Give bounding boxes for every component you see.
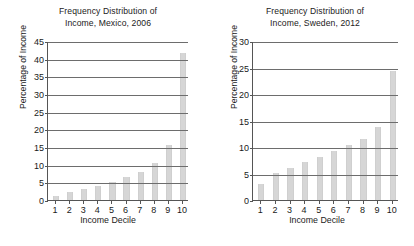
y-tick-label: 40 <box>34 55 44 65</box>
y-tick-mark <box>45 95 49 96</box>
bar <box>375 127 381 200</box>
x-tick-mark <box>140 200 141 204</box>
x-tick-label: 8 <box>151 205 156 215</box>
chart-title-line2: Income, Mexico, 2006 <box>18 18 198 30</box>
gridline <box>48 148 188 149</box>
bar <box>287 168 293 200</box>
x-tick-mark <box>83 200 84 204</box>
chart-title-line2: Income, Sweden, 2012 <box>225 18 405 30</box>
y-tick-label: 30 <box>34 90 44 100</box>
y-tick-mark <box>45 113 49 114</box>
x-tick-mark <box>260 200 261 204</box>
bar <box>317 157 323 200</box>
y-tick-label: 15 <box>239 117 249 127</box>
x-tick-label: 4 <box>302 205 307 215</box>
chart-title-line1: Frequency Distribution of <box>225 6 405 18</box>
gridline <box>48 113 188 114</box>
plot-area-sweden: 05101520253012345678910 <box>252 42 398 201</box>
x-tick-mark <box>126 200 127 204</box>
y-tick-mark <box>45 166 49 167</box>
x-tick-label: 2 <box>67 205 72 215</box>
bar <box>123 177 129 200</box>
y-tick-mark <box>250 122 254 123</box>
y-tick-mark <box>250 69 254 70</box>
y-tick-label: 30 <box>239 37 249 47</box>
gridline <box>48 166 188 167</box>
y-tick-mark <box>250 148 254 149</box>
gridline <box>253 95 398 96</box>
x-tick-label: 2 <box>272 205 277 215</box>
gridline <box>48 130 188 131</box>
y-tick-mark <box>250 201 254 202</box>
y-tick-label: 15 <box>34 143 44 153</box>
bar <box>180 53 186 200</box>
x-axis-label-mexico: Income Decile <box>18 215 198 225</box>
x-tick-mark <box>275 200 276 204</box>
x-tick-mark <box>348 200 349 204</box>
x-tick-label: 6 <box>331 205 336 215</box>
y-tick-mark <box>45 183 49 184</box>
x-tick-label: 7 <box>137 205 142 215</box>
chart-title-mexico: Frequency Distribution of Income, Mexico… <box>18 6 198 29</box>
gridline <box>253 69 398 70</box>
y-tick-mark <box>45 148 49 149</box>
bar <box>273 173 279 200</box>
y-tick-mark <box>45 60 49 61</box>
y-tick-label: 45 <box>34 37 44 47</box>
gridline <box>253 42 398 43</box>
x-tick-label: 10 <box>387 205 397 215</box>
x-tick-mark <box>319 200 320 204</box>
x-tick-mark <box>97 200 98 204</box>
chart-panel-mexico: Frequency Distribution of Income, Mexico… <box>0 0 207 246</box>
y-tick-label: 10 <box>239 143 249 153</box>
bar <box>138 172 144 200</box>
bar <box>302 162 308 200</box>
gridline <box>48 183 188 184</box>
chart-panel-sweden: Frequency Distribution of Income, Sweden… <box>207 0 414 246</box>
y-tick-mark <box>250 175 254 176</box>
x-tick-label: 5 <box>109 205 114 215</box>
x-tick-label: 1 <box>258 205 263 215</box>
x-tick-label: 10 <box>177 205 187 215</box>
gridline <box>48 95 188 96</box>
x-tick-label: 1 <box>53 205 58 215</box>
gridline <box>253 122 398 123</box>
x-tick-mark <box>304 200 305 204</box>
y-tick-mark <box>45 42 49 43</box>
x-tick-mark <box>363 200 364 204</box>
bar <box>166 145 172 200</box>
gridline <box>48 77 188 78</box>
x-tick-label: 9 <box>375 205 380 215</box>
bar <box>109 182 115 200</box>
y-tick-label: 35 <box>34 72 44 82</box>
plot-area-mexico: 05101520253035404512345678910 <box>47 42 188 201</box>
bar <box>95 186 101 200</box>
x-tick-mark <box>377 200 378 204</box>
x-tick-mark <box>111 200 112 204</box>
x-tick-label: 7 <box>345 205 350 215</box>
x-tick-mark <box>154 200 155 204</box>
x-tick-label: 8 <box>360 205 365 215</box>
y-tick-label: 0 <box>39 196 44 206</box>
y-tick-label: 25 <box>239 64 249 74</box>
x-tick-mark <box>55 200 56 204</box>
y-axis-label-mexico: Percentage of Income <box>18 0 28 137</box>
x-tick-mark <box>333 200 334 204</box>
x-tick-mark <box>392 200 393 204</box>
y-tick-mark <box>45 77 49 78</box>
x-tick-label: 9 <box>165 205 170 215</box>
y-tick-mark <box>45 201 49 202</box>
bar <box>390 71 396 200</box>
y-tick-mark <box>250 95 254 96</box>
bar <box>152 163 158 200</box>
bar <box>258 184 264 200</box>
x-tick-label: 6 <box>123 205 128 215</box>
y-tick-label: 0 <box>244 196 249 206</box>
chart-title-line1: Frequency Distribution of <box>18 6 198 18</box>
x-tick-label: 3 <box>287 205 292 215</box>
bars-layer-mexico <box>48 42 188 200</box>
y-tick-label: 20 <box>34 125 44 135</box>
bar <box>81 189 87 200</box>
gridline <box>48 60 188 61</box>
y-tick-mark <box>45 130 49 131</box>
